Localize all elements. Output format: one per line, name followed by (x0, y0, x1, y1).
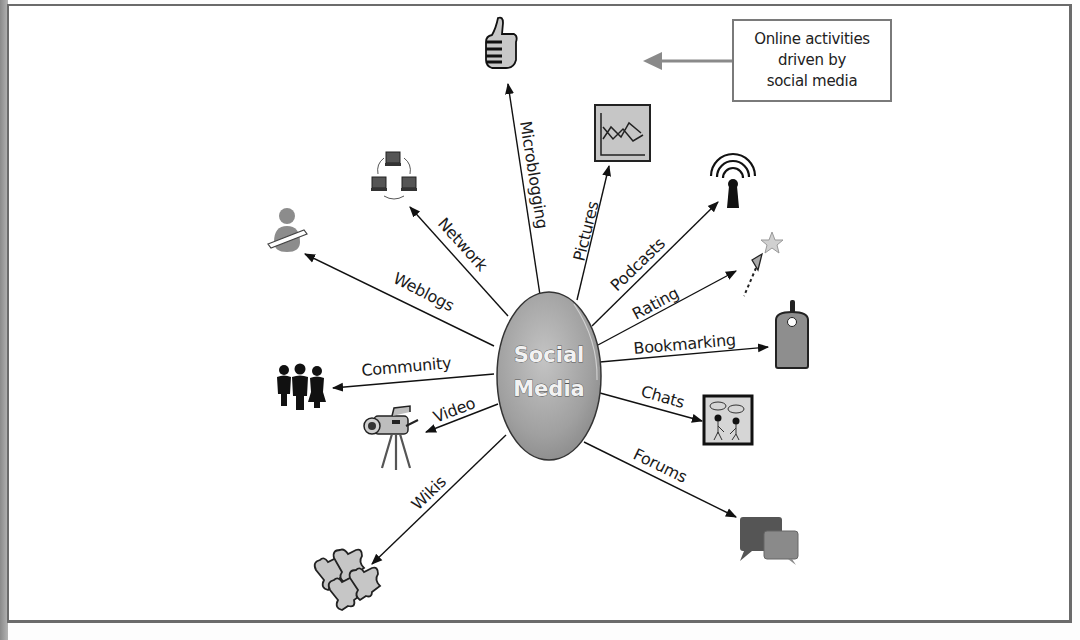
speech-bubbles-icon (740, 517, 798, 565)
network-computers-icon (371, 152, 417, 199)
hub-title-line2: Media (513, 377, 585, 401)
label-podcasts: Podcasts (607, 234, 669, 295)
label-rating: Rating (629, 283, 682, 323)
hub-title-line1: Social (514, 343, 585, 367)
callout-arrow (643, 52, 732, 70)
callout-box: Online activities driven by social media (732, 19, 892, 102)
puzzle-pieces-icon (315, 550, 380, 611)
social-media-hub: Social Media (497, 292, 601, 460)
label-weblogs: Weblogs (390, 269, 457, 316)
social-media-diagram: Microblogging Pictures Podcasts Rating B… (0, 0, 1080, 640)
spoke-weblogs (305, 254, 494, 346)
label-community: Community (361, 353, 452, 380)
label-pictures: Pictures (569, 199, 602, 263)
callout-line-1: Online activities (754, 29, 870, 50)
label-chats: Chats (639, 382, 687, 412)
label-forums: Forums (630, 445, 690, 487)
picture-chart-icon (595, 105, 650, 161)
label-wikis: Wikis (408, 472, 450, 514)
chat-people-icon (704, 396, 752, 444)
callout-line-3: social media (767, 71, 858, 92)
video-camera-icon (364, 406, 418, 470)
thumbs-up-icon (486, 18, 517, 68)
callout-line-2: driven by (778, 50, 846, 71)
star-cursor-icon (744, 232, 783, 296)
spoke-community (333, 374, 494, 388)
people-group-icon (277, 364, 326, 411)
tag-icon (776, 300, 808, 368)
spoke-forums (584, 442, 736, 517)
person-pencil-icon (268, 208, 307, 252)
broadcast-icon (711, 154, 755, 208)
spoke-wikis (372, 435, 506, 564)
